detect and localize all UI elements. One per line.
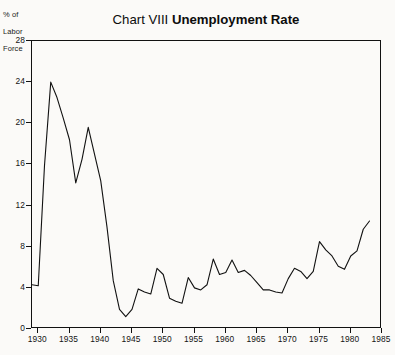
y-axis-tick <box>26 328 31 329</box>
y-axis-tick-label: 4 <box>0 282 25 292</box>
x-axis-tick <box>381 328 382 333</box>
x-axis-tick <box>69 328 70 333</box>
y-axis-tick <box>26 81 31 82</box>
y-axis-tick <box>26 205 31 206</box>
y-axis-tick-label: 24 <box>0 76 25 86</box>
x-axis-tick <box>194 328 195 333</box>
y-axis-tick <box>26 246 31 247</box>
x-axis-tick <box>162 328 163 333</box>
x-axis-tick <box>350 328 351 333</box>
x-axis-tick <box>37 328 38 333</box>
y-axis-tick <box>26 122 31 123</box>
x-axis-tick <box>100 328 101 333</box>
y-axis-tick-label: 20 <box>0 117 25 127</box>
x-axis-tick <box>256 328 257 333</box>
y-axis-tick <box>26 287 31 288</box>
y-axis-tick-label: 0 <box>0 323 25 333</box>
y-axis-tick-label: 28 <box>0 35 25 45</box>
y-axis-tick <box>26 163 31 164</box>
y-axis-tick-label: 12 <box>0 200 25 210</box>
x-axis-tick-label: 1985 <box>361 334 395 344</box>
y-axis-tick <box>26 40 31 41</box>
x-axis-tick <box>131 328 132 333</box>
y-axis-tick-label: 16 <box>0 158 25 168</box>
x-axis-tick <box>225 328 226 333</box>
x-axis-tick <box>287 328 288 333</box>
y-axis-tick-label: 8 <box>0 241 25 251</box>
x-axis-tick <box>319 328 320 333</box>
